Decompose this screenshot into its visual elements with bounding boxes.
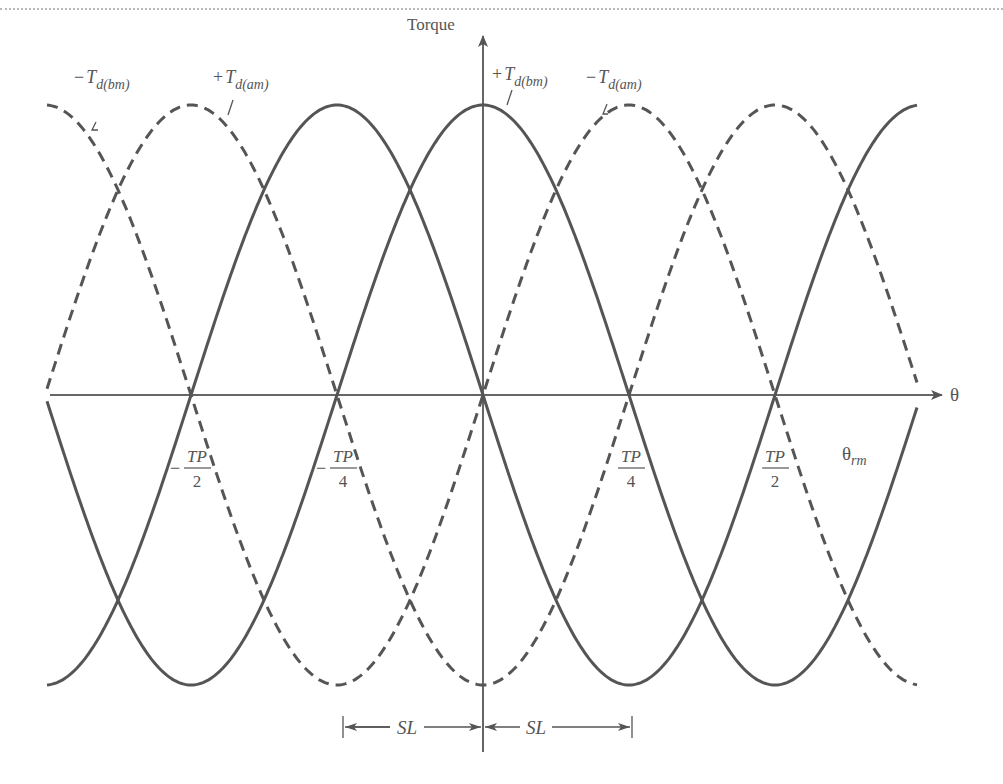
- curve-label-pos-tdam: +Td(am): [213, 67, 269, 93]
- svg-text:−: −: [170, 458, 180, 478]
- torque-diagram: Torque θ θrm −Td(bm) +Td(am) +Td(bm) −Td…: [0, 0, 1003, 784]
- tick-label-tp4: TP 4: [618, 447, 645, 491]
- dimension-sl-left-label: SL: [397, 717, 417, 738]
- tick-label-neg-tp2: − TP 2: [170, 447, 211, 491]
- tick-label-neg-tp4: − TP 4: [316, 447, 357, 491]
- curve-label-pos-tdbm: +Td(bm): [492, 64, 548, 90]
- tick-label-tp2: TP 2: [762, 447, 789, 491]
- svg-text:TP: TP: [621, 447, 641, 466]
- svg-text:TP: TP: [765, 447, 785, 466]
- svg-text:2: 2: [193, 472, 202, 491]
- dimension-sl-right-label: SL: [526, 717, 546, 738]
- dimension-sl-right: [485, 716, 632, 738]
- theta-rm-label: θrm: [842, 443, 867, 468]
- svg-text:2: 2: [771, 472, 780, 491]
- svg-text:TP: TP: [333, 447, 353, 466]
- svg-text:−: −: [316, 458, 326, 478]
- x-axis-label: θ: [950, 384, 959, 405]
- svg-text:TP: TP: [187, 447, 207, 466]
- y-axis-label: Torque: [407, 15, 455, 34]
- curve-label-neg-tdbm: −Td(bm): [74, 67, 130, 93]
- label-leaders: [92, 90, 608, 130]
- curve-label-neg-tdam: −Td(am): [586, 67, 642, 93]
- svg-text:4: 4: [627, 472, 636, 491]
- svg-text:4: 4: [339, 472, 348, 491]
